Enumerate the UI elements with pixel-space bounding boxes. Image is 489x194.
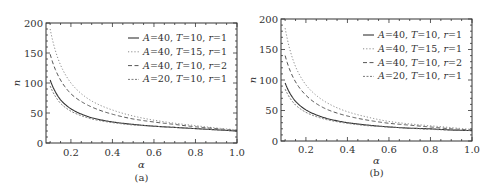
x-tick-label: 0.4 <box>104 147 120 158</box>
legend: A=40, T=10, r=1A=40, T=15, r=1A=40, T=10… <box>128 32 227 84</box>
x-tick-label: 0.8 <box>423 144 439 155</box>
legend-entry: A=40, T=10, r=2 <box>377 57 462 68</box>
figure: 0.20.40.60.81.0050100150200αn(a)A=40, T=… <box>0 0 489 194</box>
x-tick-label: 0.6 <box>381 144 397 155</box>
chart-panel-b: 0.20.40.60.81.0050100150200αn(b)A=40, T=… <box>247 14 480 179</box>
chart-panel-a: 0.20.40.60.81.0050100150200αn(a)A=40, T=… <box>11 18 245 184</box>
x-tick-label: 0.2 <box>63 147 79 158</box>
legend-entry: A=40, T=10, r=2 <box>142 60 227 71</box>
legend-entry: A=40, T=15, r=1 <box>142 46 227 57</box>
y-tick-label: 150 <box>24 48 43 59</box>
y-tick-label: 0 <box>37 138 43 149</box>
y-tick-label: 150 <box>259 44 278 55</box>
series-line-0 <box>285 83 472 131</box>
x-tick-label: 0.2 <box>298 144 314 155</box>
y-axis-label: n <box>247 77 258 83</box>
x-tick-label: 0.6 <box>146 147 162 158</box>
legend-entry: A=40, T=10, r=1 <box>142 32 227 43</box>
x-tick-label: 0.8 <box>188 147 204 158</box>
legend-entry: A=20, T=10, r=1 <box>142 73 227 84</box>
y-tick-label: 200 <box>24 18 43 29</box>
x-axis-label: α <box>373 155 380 166</box>
y-tick-label: 0 <box>272 136 278 147</box>
y-tick-label: 50 <box>265 105 278 116</box>
x-axis-label: α <box>138 159 145 170</box>
y-tick-label: 100 <box>24 78 43 89</box>
legend: A=40, T=10, r=1A=40, T=15, r=1A=40, T=10… <box>363 29 462 81</box>
y-axis-label: n <box>11 80 22 86</box>
panel-caption: (b) <box>369 167 383 178</box>
series-line-3 <box>285 89 472 130</box>
legend-entry: A=20, T=10, r=1 <box>377 70 462 81</box>
x-tick-label: 1.0 <box>229 147 245 158</box>
panel-caption: (a) <box>135 172 149 183</box>
y-tick-label: 50 <box>30 108 43 119</box>
x-tick-label: 0.4 <box>339 144 355 155</box>
legend-entry: A=40, T=15, r=1 <box>377 43 462 54</box>
series-line-3 <box>50 86 237 131</box>
y-tick-label: 100 <box>259 75 278 86</box>
x-tick-label: 1.0 <box>464 144 480 155</box>
series-line-0 <box>50 80 237 131</box>
legend-entry: A=40, T=10, r=1 <box>377 29 462 40</box>
y-tick-label: 200 <box>259 14 278 25</box>
